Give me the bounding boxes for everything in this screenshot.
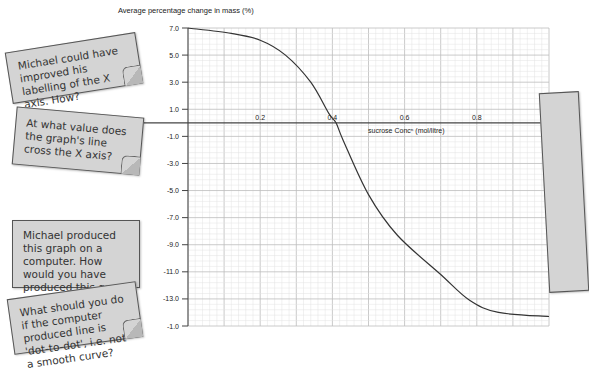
svg-text:1.0: 1.0 bbox=[169, 106, 179, 113]
svg-text:-13.0: -13.0 bbox=[163, 295, 179, 302]
chart-grid bbox=[188, 28, 549, 326]
svg-text:-1.0: -1.0 bbox=[167, 133, 179, 140]
note-text: What should you do if the computer produ… bbox=[19, 292, 127, 370]
svg-text:-1.0: -1.0 bbox=[167, 323, 179, 330]
page-curl-icon bbox=[122, 65, 144, 87]
page-curl-icon bbox=[120, 155, 141, 176]
svg-text:3.0: 3.0 bbox=[169, 79, 179, 86]
svg-text:0.2: 0.2 bbox=[255, 114, 265, 121]
y-axis-label: Average percentage change in mass (%) bbox=[118, 6, 254, 15]
svg-text:-3.0: -3.0 bbox=[167, 160, 179, 167]
svg-text:-11.0: -11.0 bbox=[164, 268, 180, 275]
svg-text:0.4: 0.4 bbox=[328, 114, 338, 121]
svg-text:0.6: 0.6 bbox=[400, 114, 410, 121]
svg-text:7.0: 7.0 bbox=[169, 25, 179, 32]
svg-text:-5.0: -5.0 bbox=[167, 187, 179, 194]
svg-text:-9.0: -9.0 bbox=[167, 241, 179, 248]
y-axis-ticks: 7.05.03.01.0-1.0-3.0-5.0-7.0-9.0-11.0-13… bbox=[163, 25, 188, 330]
svg-text:-7.0: -7.0 bbox=[167, 214, 179, 221]
note-computer-graph: Michael produced this graph on a compute… bbox=[12, 220, 140, 288]
note-x-axis-crossing: At what value does the graph's line cros… bbox=[12, 107, 145, 176]
chart-axes bbox=[140, 28, 549, 326]
svg-text:0.8: 0.8 bbox=[472, 114, 482, 121]
x-axis-label: sucrose Concⁿ (mol/litre) bbox=[368, 127, 444, 135]
page-curl-icon bbox=[122, 318, 143, 339]
svg-text:5.0: 5.0 bbox=[169, 52, 179, 59]
note-text: At what value does the graph's line cros… bbox=[24, 116, 128, 162]
